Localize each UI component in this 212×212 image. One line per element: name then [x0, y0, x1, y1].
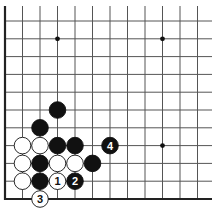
- star-point: [160, 36, 165, 41]
- stone-white-move-1: 1: [49, 173, 66, 190]
- stone-white: [49, 155, 66, 172]
- stone-black-move-4: 4: [102, 137, 119, 154]
- stone-black: [49, 137, 66, 154]
- stone-white-move-3: 3: [32, 191, 49, 208]
- black-stone-icon: [84, 155, 101, 172]
- white-stone-icon: [14, 173, 31, 190]
- stone-black-move-2: 2: [67, 173, 84, 190]
- white-stone-icon: [67, 155, 84, 172]
- stone-white: [14, 173, 31, 190]
- black-stone-icon: [49, 102, 66, 119]
- stone-black: [32, 155, 49, 172]
- stone-white: [14, 155, 31, 172]
- white-stone-icon: [32, 137, 49, 154]
- black-stone-icon: [32, 155, 49, 172]
- stone-black: [32, 173, 49, 190]
- go-board-diagram: 4123: [0, 0, 212, 212]
- white-stone-icon: [14, 155, 31, 172]
- move-number: 4: [107, 140, 114, 152]
- stone-black: [49, 102, 66, 119]
- stone-white: [32, 137, 49, 154]
- white-stone-icon: [49, 155, 66, 172]
- move-number: 1: [54, 175, 60, 187]
- stone-white: [67, 155, 84, 172]
- white-stone-icon: [14, 137, 31, 154]
- stone-black: [67, 137, 84, 154]
- star-point: [55, 36, 60, 41]
- black-stone-icon: [67, 137, 84, 154]
- move-number: 3: [37, 193, 43, 205]
- stone-white: [14, 137, 31, 154]
- go-board: 4123: [0, 0, 212, 212]
- black-stone-icon: [49, 137, 66, 154]
- black-stone-icon: [32, 120, 49, 137]
- stone-black: [84, 155, 101, 172]
- stone-black: [32, 120, 49, 137]
- star-point: [160, 143, 165, 148]
- black-stone-icon: [32, 173, 49, 190]
- move-number: 2: [72, 175, 78, 187]
